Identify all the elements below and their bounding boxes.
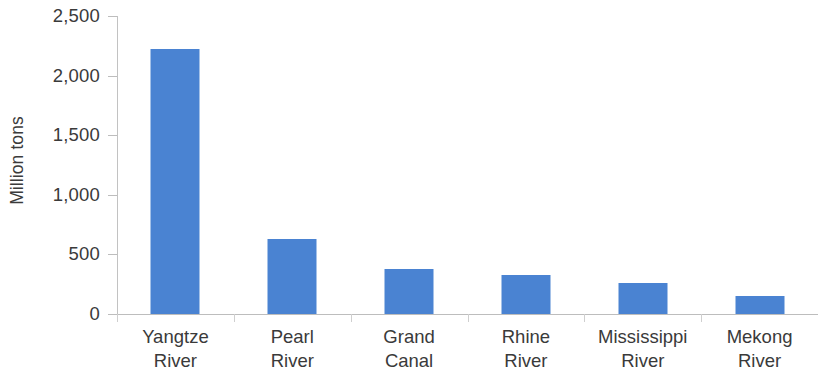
y-axis-tick-mark <box>108 195 117 196</box>
plot-area <box>117 16 818 314</box>
x-axis-category-label: PearlRiver <box>234 325 351 373</box>
x-axis-line <box>108 314 818 315</box>
x-axis-category-label-line1: Grand <box>351 325 468 349</box>
x-axis-category-label: MississippiRiver <box>584 325 701 373</box>
x-axis-category-label-line2: River <box>117 349 234 373</box>
y-axis-tick-label: 2,000 <box>26 65 100 87</box>
y-axis-tick-label: 1,500 <box>26 124 100 146</box>
x-axis-tick-mark <box>584 314 585 322</box>
bar-slot <box>584 16 701 314</box>
x-axis-category-label-line1: Mississippi <box>584 325 701 349</box>
x-axis-tick-mark <box>351 314 352 322</box>
y-axis-tick-labels: 05001,0001,5002,0002,500 <box>26 0 100 377</box>
bar-slot <box>351 16 468 314</box>
bar[interactable] <box>268 239 317 314</box>
x-axis-category-label-line1: Pearl <box>234 325 351 349</box>
x-axis-category-label: RhineRiver <box>468 325 585 373</box>
x-axis-category-label-line2: River <box>468 349 585 373</box>
x-axis-category-label-line2: Canal <box>351 349 468 373</box>
y-axis-title-text: Million tons <box>7 116 28 205</box>
y-axis-tick-mark <box>108 135 117 136</box>
bar[interactable] <box>735 296 784 314</box>
y-axis-tick-label: 2,500 <box>26 5 100 27</box>
bar[interactable] <box>151 49 200 314</box>
x-axis-category-label: YangtzeRiver <box>117 325 234 373</box>
bar-slot <box>234 16 351 314</box>
bar-chart: Million tons 05001,0001,5002,0002,500 Ya… <box>0 0 818 377</box>
bar[interactable] <box>501 275 550 314</box>
x-axis-category-label: MekongRiver <box>701 325 818 373</box>
y-axis-tick-label: 500 <box>26 243 100 265</box>
x-axis-category-label-line1: Rhine <box>468 325 585 349</box>
x-axis-category-label-line1: Mekong <box>701 325 818 349</box>
y-axis-tick-label: 0 <box>26 303 100 325</box>
bar[interactable] <box>618 283 667 314</box>
bar-slot <box>468 16 585 314</box>
bar[interactable] <box>385 269 434 314</box>
x-axis-category-label-line2: River <box>234 349 351 373</box>
y-axis-tick-mark <box>108 76 117 77</box>
x-axis-tick-mark <box>701 314 702 322</box>
y-axis-tick-label: 1,000 <box>26 184 100 206</box>
y-axis-tick-mark <box>108 16 117 17</box>
x-axis-category-label: GrandCanal <box>351 325 468 373</box>
y-axis-tick-mark <box>108 254 117 255</box>
bar-slot <box>117 16 234 314</box>
x-axis-category-labels: YangtzeRiverPearlRiverGrandCanalRhineRiv… <box>117 325 818 377</box>
bar-slot <box>701 16 818 314</box>
x-axis-tick-mark <box>117 314 118 322</box>
x-axis-category-label-line2: River <box>701 349 818 373</box>
x-axis-tick-mark <box>468 314 469 322</box>
x-axis-category-label-line1: Yangtze <box>117 325 234 349</box>
x-axis-tick-mark <box>234 314 235 322</box>
x-axis-category-label-line2: River <box>584 349 701 373</box>
